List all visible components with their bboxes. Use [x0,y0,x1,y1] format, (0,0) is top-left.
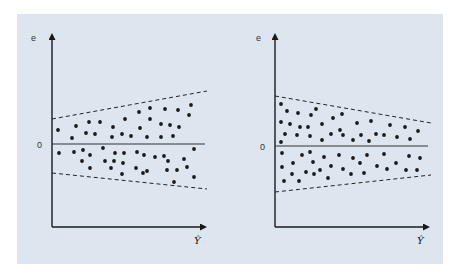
data-point [296,111,300,115]
data-point [280,165,284,169]
data-point [162,154,166,158]
data-point [374,132,378,136]
data-point [394,161,398,165]
data-point [113,151,117,155]
data-point [177,125,181,129]
data-point [388,123,392,127]
data-point [322,155,326,159]
data-point [304,170,308,174]
data-point [110,135,114,139]
data-point [375,164,379,168]
data-point [163,107,167,111]
data-point [142,153,146,157]
data-point [57,151,61,155]
data-point [382,133,386,137]
axes [275,35,428,227]
data-point [403,125,407,129]
data-point [172,180,176,184]
data-point [318,168,322,172]
data-point [351,138,355,142]
data-point [338,128,342,132]
data-point [283,132,287,136]
data-point [416,129,420,133]
data-point [80,159,84,163]
data-point [112,159,116,163]
residual-plots-figure: e 0 Ŷ e 0 Ŷ [0,0,459,277]
data-point [72,150,76,154]
data-point [148,117,152,121]
upper-bound-line [275,96,431,123]
data-point [111,125,115,129]
data-point [404,168,408,172]
data-point [192,147,196,151]
data-point [81,148,85,152]
data-point [123,117,127,121]
data-point [295,133,299,137]
data-point [88,166,92,170]
data-point [84,131,88,135]
data-point [308,134,312,138]
data-point [298,125,302,129]
data-point [279,120,283,124]
data-point [134,166,138,170]
y-axis-label: e [31,33,36,43]
zero-label: 0 [260,142,265,152]
data-point [141,171,145,175]
data-point [120,172,124,176]
lower-bound-line [52,173,207,189]
data-point [135,150,139,154]
residual-points [279,102,422,183]
data-point [74,124,78,128]
data-point [182,157,186,161]
data-point [331,116,335,120]
data-point [121,161,125,165]
chart-left: e 0 Ŷ [31,33,207,246]
data-point [129,134,133,138]
zero-label: 0 [37,140,42,150]
data-point [408,137,412,141]
data-point [297,179,301,183]
data-point [148,106,152,110]
x-axis-label: Ŷ [194,235,202,246]
data-point [385,167,389,171]
data-point [329,132,333,136]
data-point [311,160,315,164]
data-point [175,168,179,172]
data-point [337,153,341,157]
data-point [192,175,196,179]
data-point [306,125,310,129]
data-point [87,120,91,124]
variance-envelope [52,91,207,189]
lower-bound-line [275,175,431,192]
data-point [314,107,318,111]
data-point [101,146,105,150]
data-point [355,121,359,125]
data-point [320,122,324,126]
data-point [312,172,316,176]
data-point [290,172,294,176]
data-point [300,153,304,157]
data-point [279,102,283,106]
data-point [166,159,170,163]
data-point [88,153,92,157]
data-point [109,166,113,170]
data-point [145,135,149,139]
data-point [351,156,355,160]
data-point [358,161,362,165]
data-point [365,153,369,157]
data-point [369,119,373,123]
data-point [288,122,292,126]
data-point [153,155,157,159]
data-point [340,112,344,116]
data-point [168,123,172,127]
data-point [189,103,193,107]
data-point [326,176,330,180]
y-axis-label: e [256,33,261,43]
x-axis-label: Ŷ [417,235,425,246]
data-point [395,135,399,139]
data-point [103,159,107,163]
data-point [341,167,345,171]
data-point [308,150,312,154]
data-point [145,169,149,173]
data-point [280,151,284,155]
